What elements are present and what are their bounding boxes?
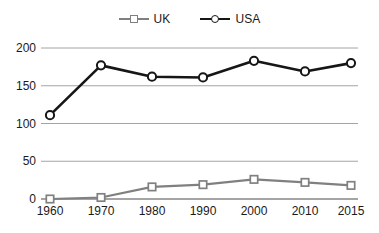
data-point-usa-2010[interactable] <box>301 67 309 75</box>
plot-area <box>0 0 379 233</box>
data-point-uk-1990[interactable] <box>199 181 206 188</box>
data-point-usa-1990[interactable] <box>199 73 207 81</box>
data-point-usa-1980[interactable] <box>148 73 156 81</box>
series-markers-usa <box>46 57 355 120</box>
data-point-uk-2010[interactable] <box>301 179 308 186</box>
data-point-uk-2015[interactable] <box>347 182 354 189</box>
data-point-uk-1960[interactable] <box>46 195 53 202</box>
data-point-usa-2000[interactable] <box>250 57 258 65</box>
data-point-uk-1970[interactable] <box>97 194 104 201</box>
data-point-uk-1980[interactable] <box>148 183 155 190</box>
data-point-usa-2015[interactable] <box>347 59 355 67</box>
data-point-usa-1970[interactable] <box>97 61 105 69</box>
data-point-uk-2000[interactable] <box>250 176 257 183</box>
line-chart: UK USA 200 150 100 50 0 1960 1970 1980 1… <box>0 0 379 233</box>
data-point-usa-1960[interactable] <box>46 111 54 119</box>
